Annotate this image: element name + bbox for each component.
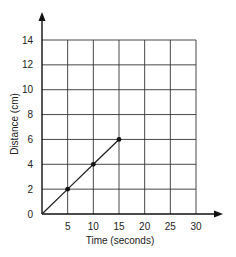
y-axis-label: Distance (cm) xyxy=(9,93,20,155)
y-tick-label: 0 xyxy=(27,209,33,220)
y-tick-label: 2 xyxy=(27,184,33,195)
y-tick-label: 4 xyxy=(27,159,33,170)
x-axis-arrow-icon xyxy=(214,211,223,218)
data-line xyxy=(42,139,119,214)
x-tick-label: 20 xyxy=(139,221,151,232)
y-tick-label: 12 xyxy=(22,59,34,70)
y-tick-label: 14 xyxy=(22,35,34,46)
x-tick-label: 30 xyxy=(190,221,202,232)
y-axis-arrow-icon xyxy=(39,12,46,21)
data-point xyxy=(65,187,70,192)
x-tick-label: 5 xyxy=(65,221,71,232)
x-tick-label: 10 xyxy=(88,221,100,232)
x-tick-label: 25 xyxy=(165,221,177,232)
x-tick-label: 15 xyxy=(113,221,125,232)
distance-time-chart: 0246810121451015202530Time (seconds)Dist… xyxy=(0,0,236,257)
y-tick-label: 8 xyxy=(27,109,33,120)
y-tick-label: 6 xyxy=(27,134,33,145)
data-point xyxy=(117,137,122,142)
data-point xyxy=(91,162,96,167)
x-axis-label: Time (seconds) xyxy=(86,235,155,246)
y-tick-label: 10 xyxy=(22,84,34,95)
